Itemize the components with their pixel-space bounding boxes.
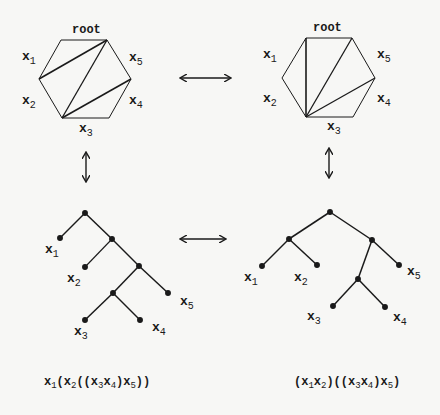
left-tree-leaf-x3: x3 (74, 325, 88, 338)
right-hexagon-label-x2: x2 (263, 92, 277, 105)
left-tree-leaf-x4: x4 (152, 321, 166, 334)
right-tree-leaf-x1: x1 (244, 271, 258, 284)
right-hexagon-label-x3: x3 (327, 120, 341, 133)
right-hexagon-label-x5: x5 (377, 48, 391, 61)
right-expression: (x1x2)((x3x4)x5) (294, 375, 400, 389)
left-tree-leaf-x1: x1 (45, 243, 59, 256)
right-hexagon (282, 38, 375, 117)
right-hexagon-root-label: root (313, 22, 342, 35)
right-hexagon-label-x1: x1 (263, 48, 277, 61)
right-tree-leaf-x4: x4 (393, 311, 407, 324)
right-hexagon-label-x4: x4 (377, 92, 391, 105)
left-tree (58, 211, 170, 322)
left-hexagon-label-x4: x4 (129, 94, 143, 107)
right-tree (260, 210, 401, 309)
right-tree-leaf-x3: x3 (307, 310, 321, 323)
left-tree-leaf-x5: x5 (180, 295, 194, 308)
left-hexagon-label-x5: x5 (129, 51, 143, 64)
left-expression: x1(x2((x3x4)x5)) (44, 375, 150, 389)
left-hexagon-label-x3: x3 (79, 122, 93, 135)
right-tree-leaf-x5: x5 (407, 265, 421, 278)
left-hexagon (39, 40, 131, 118)
right-tree-leaf-x2: x2 (294, 271, 308, 284)
left-hexagon-label-x2: x2 (22, 94, 36, 107)
left-hexagon-root-label: root (72, 24, 101, 37)
left-tree-leaf-x2: x2 (67, 272, 81, 285)
diagram-canvas (0, 0, 440, 415)
left-hexagon-label-x1: x1 (22, 50, 36, 63)
